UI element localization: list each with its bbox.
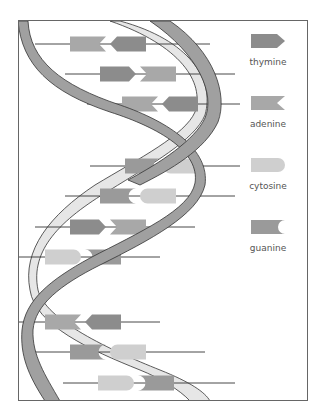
thymine-base	[110, 37, 146, 52]
legend-label: guanine	[238, 243, 298, 253]
thymine-base	[162, 97, 198, 112]
cytosine-swatch-icon	[251, 158, 285, 172]
cytosine-base	[98, 376, 134, 391]
legend-label: cytosine	[238, 181, 298, 191]
legend-label: thymine	[238, 57, 298, 67]
legend-cytosine: cytosine	[238, 158, 298, 191]
thymine-base	[70, 220, 106, 235]
legend-label: adenine	[238, 119, 298, 129]
legend-thymine: thymine	[238, 34, 298, 67]
thymine-swatch-icon	[251, 34, 285, 48]
cytosine-base	[140, 189, 176, 204]
thymine-base	[100, 67, 136, 82]
guanine-swatch-icon	[251, 220, 285, 234]
legend-adenine: adenine	[238, 96, 298, 129]
adenine-swatch-icon	[251, 96, 285, 110]
thymine-base	[85, 315, 121, 330]
cytosine-base	[45, 250, 81, 265]
cytosine-base	[110, 345, 146, 360]
legend-guanine: guanine	[238, 220, 298, 253]
